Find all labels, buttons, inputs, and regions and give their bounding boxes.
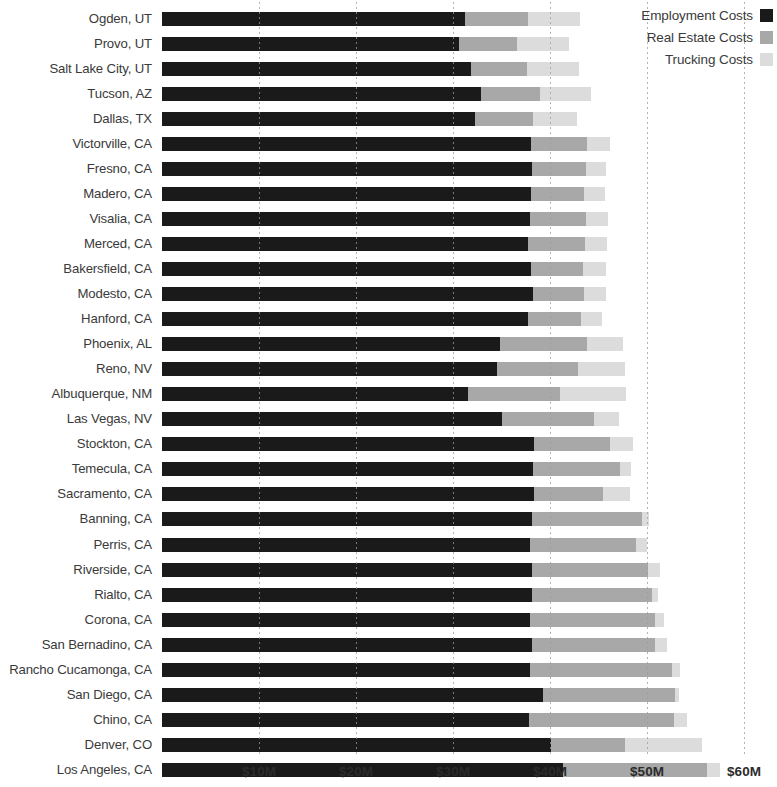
bar-segment-trucking[interactable] [648, 563, 660, 577]
stacked-bar[interactable] [162, 512, 777, 526]
bar-segment-trucking[interactable] [594, 412, 619, 426]
stacked-bar[interactable] [162, 287, 777, 301]
bar-row[interactable]: San Diego, CA [0, 682, 777, 707]
bar-segment-real-estate[interactable] [532, 588, 652, 602]
bar-row[interactable]: Riverside, CA [0, 557, 777, 582]
bar-row[interactable]: Merced, CA [0, 231, 777, 256]
stacked-bar[interactable] [162, 162, 777, 176]
stacked-bar[interactable] [162, 237, 777, 251]
bar-segment-real-estate[interactable] [532, 638, 655, 652]
bar-segment-employment[interactable] [162, 12, 465, 26]
stacked-bar[interactable] [162, 87, 777, 101]
bar-segment-real-estate[interactable] [481, 87, 540, 101]
bar-segment-trucking[interactable] [533, 112, 578, 126]
bar-segment-trucking[interactable] [517, 37, 569, 51]
bar-segment-employment[interactable] [162, 613, 530, 627]
bar-segment-employment[interactable] [162, 738, 551, 752]
stacked-bar[interactable] [162, 688, 777, 702]
bar-segment-real-estate[interactable] [529, 713, 675, 727]
bar-segment-real-estate[interactable] [528, 237, 585, 251]
bar-segment-trucking[interactable] [587, 137, 610, 151]
bar-segment-trucking[interactable] [578, 362, 625, 376]
bar-segment-employment[interactable] [162, 212, 530, 226]
bar-segment-real-estate[interactable] [534, 437, 610, 451]
bar-segment-employment[interactable] [162, 437, 534, 451]
bar-segment-real-estate[interactable] [459, 37, 517, 51]
bar-segment-real-estate[interactable] [475, 112, 532, 126]
bar-segment-trucking[interactable] [672, 663, 680, 677]
bar-segment-real-estate[interactable] [543, 688, 675, 702]
bar-row[interactable]: Rialto, CA [0, 582, 777, 607]
bar-segment-real-estate[interactable] [500, 337, 587, 351]
bar-segment-trucking[interactable] [560, 387, 626, 401]
bar-segment-employment[interactable] [162, 187, 531, 201]
bar-segment-real-estate[interactable] [533, 287, 584, 301]
bar-segment-real-estate[interactable] [532, 563, 648, 577]
bar-segment-employment[interactable] [162, 337, 500, 351]
bar-row[interactable]: Hanford, CA [0, 307, 777, 332]
bar-segment-real-estate[interactable] [528, 312, 581, 326]
bar-segment-employment[interactable] [162, 688, 543, 702]
bar-row[interactable]: Rancho Cucamonga, CA [0, 657, 777, 682]
bar-row[interactable]: Bakersfield, CA [0, 256, 777, 281]
bar-row[interactable]: Madero, CA [0, 181, 777, 206]
bar-segment-trucking[interactable] [586, 162, 606, 176]
bar-segment-trucking[interactable] [540, 87, 590, 101]
stacked-bar[interactable] [162, 588, 777, 602]
bar-segment-trucking[interactable] [642, 512, 649, 526]
bar-row[interactable]: Banning, CA [0, 507, 777, 532]
bar-segment-employment[interactable] [162, 588, 532, 602]
bar-segment-employment[interactable] [162, 487, 534, 501]
bar-segment-employment[interactable] [162, 362, 497, 376]
stacked-bar[interactable] [162, 387, 777, 401]
bar-segment-real-estate[interactable] [533, 462, 620, 476]
bar-row[interactable]: Dallas, TX [0, 106, 777, 131]
bar-row[interactable]: Perris, CA [0, 532, 777, 557]
stacked-bar[interactable] [162, 713, 777, 727]
bar-segment-trucking[interactable] [583, 262, 606, 276]
bar-row[interactable]: Sacramento, CA [0, 482, 777, 507]
bar-segment-real-estate[interactable] [465, 12, 528, 26]
bar-row[interactable]: Modesto, CA [0, 282, 777, 307]
stacked-bar[interactable] [162, 362, 777, 376]
bar-segment-employment[interactable] [162, 262, 531, 276]
bar-segment-trucking[interactable] [584, 187, 605, 201]
bar-segment-trucking[interactable] [625, 738, 703, 752]
stacked-bar[interactable] [162, 337, 777, 351]
bar-segment-trucking[interactable] [584, 287, 606, 301]
bar-segment-real-estate[interactable] [531, 137, 587, 151]
bar-segment-trucking[interactable] [652, 588, 658, 602]
bar-segment-trucking[interactable] [585, 237, 607, 251]
bar-row[interactable]: Reno, NV [0, 357, 777, 382]
bar-segment-real-estate[interactable] [530, 613, 655, 627]
stacked-bar[interactable] [162, 487, 777, 501]
bar-row[interactable]: Corona, CA [0, 607, 777, 632]
bar-segment-trucking[interactable] [527, 62, 579, 76]
bar-segment-real-estate[interactable] [531, 262, 583, 276]
bar-row[interactable]: Fresno, CA [0, 156, 777, 181]
bar-row[interactable]: Albuquerque, NM [0, 382, 777, 407]
stacked-bar[interactable] [162, 137, 777, 151]
bar-segment-trucking[interactable] [655, 613, 665, 627]
bar-segment-trucking[interactable] [586, 212, 608, 226]
bar-row[interactable]: San Bernadino, CA [0, 632, 777, 657]
bar-segment-employment[interactable] [162, 412, 502, 426]
stacked-bar[interactable] [162, 262, 777, 276]
bar-segment-trucking[interactable] [655, 638, 668, 652]
stacked-bar[interactable] [162, 563, 777, 577]
bar-segment-employment[interactable] [162, 87, 481, 101]
bar-segment-real-estate[interactable] [530, 663, 673, 677]
bar-segment-employment[interactable] [162, 638, 532, 652]
bar-segment-real-estate[interactable] [532, 512, 643, 526]
legend-item[interactable]: Trucking Costs [593, 48, 773, 70]
bar-segment-real-estate[interactable] [530, 538, 637, 552]
bar-segment-employment[interactable] [162, 387, 468, 401]
bar-row[interactable]: Tucson, AZ [0, 81, 777, 106]
bar-segment-trucking[interactable] [528, 12, 580, 26]
bar-segment-real-estate[interactable] [534, 487, 604, 501]
stacked-bar[interactable] [162, 638, 777, 652]
bar-segment-trucking[interactable] [620, 462, 632, 476]
bar-segment-employment[interactable] [162, 462, 533, 476]
bar-segment-employment[interactable] [162, 137, 531, 151]
stacked-bar[interactable] [162, 462, 777, 476]
